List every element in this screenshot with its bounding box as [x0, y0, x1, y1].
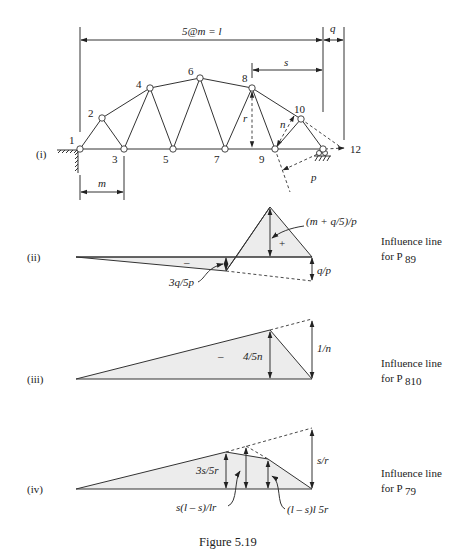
panel-label-iii: (iii) — [27, 373, 44, 386]
s-label: s — [284, 56, 288, 68]
web-members — [102, 78, 301, 149]
plus-sign: + — [279, 237, 285, 249]
minus-sign: – — [183, 256, 190, 268]
figure-caption: Figure 5.19 — [199, 535, 257, 549]
node-label-7: 7 — [214, 153, 220, 165]
node-label-2: 2 — [88, 107, 94, 119]
negative-area — [76, 330, 312, 379]
line-10-to-12 — [301, 119, 342, 148]
p-label: p — [310, 171, 317, 183]
peak-label: 4/5n — [243, 350, 263, 362]
dashed-extension — [270, 319, 312, 330]
caption-line2: for P — [381, 372, 403, 384]
node-label-3: 3 — [112, 153, 118, 165]
minus-sign: – — [217, 350, 224, 362]
influence-line-p89: (ii) (m + q/5)/p + – 3q/5p q/p Influence… — [27, 207, 442, 288]
node-label-8: 8 — [242, 72, 248, 84]
negative-label: 3q/5p — [168, 276, 195, 288]
end-label: s/r — [317, 454, 329, 466]
left-ordinate-label: 3s/5r — [195, 464, 219, 476]
truss-nodes — [77, 75, 326, 152]
caption-subscript: 79 — [405, 485, 417, 497]
arrow-to-12 — [325, 148, 344, 149]
node-label-1: 1 — [69, 134, 75, 146]
influence-line-p810: (iii) – 4/5n 1/n Influence line for P 81… — [27, 319, 442, 387]
m-label: m — [98, 177, 106, 189]
node-label-5: 5 — [163, 153, 169, 165]
line-9-extension — [275, 149, 290, 192]
dashed-upper-line — [226, 428, 312, 452]
node-label-6: 6 — [188, 65, 194, 77]
panel-label-i: (i) — [36, 148, 47, 161]
figure-canvas: (i) 5@m = l q s r n 12 p — [0, 0, 461, 559]
right-ordinate-label: (l – s)l 5r — [287, 503, 329, 516]
n-label: n — [280, 118, 286, 130]
p-dimension-arrow — [283, 152, 322, 170]
end-label: q/p — [317, 264, 332, 276]
node-label-9: 9 — [259, 153, 265, 165]
node-label-10: 10 — [294, 103, 306, 115]
r-label: r — [243, 112, 248, 124]
truss-diagram: (i) 5@m = l q s r n 12 p — [36, 22, 361, 200]
q-label: q — [330, 22, 336, 34]
dashed-extension — [226, 271, 312, 281]
caption-line1: Influence line — [381, 235, 442, 247]
node-label-4: 4 — [136, 78, 142, 90]
caption-line2: for P — [381, 482, 403, 494]
panel-label-ii: (ii) — [27, 251, 41, 264]
span-label: 5@m = l — [182, 25, 222, 37]
caption-line1: Influence line — [381, 357, 442, 369]
peak-label: (m + q/5)/p — [306, 215, 357, 228]
caption-line2: for P — [381, 250, 403, 262]
caption-subscript: 810 — [405, 375, 422, 387]
panel-label-iv: (iv) — [27, 483, 43, 496]
caption-line1: Influence line — [381, 467, 442, 479]
influence-line-p79: (iv) 3s/5r s(l – s)/lr (l – s)l 5r s/r I… — [27, 428, 442, 516]
mid-ordinate-label: s(l – s)/lr — [176, 501, 217, 514]
node-label-12: 12 — [350, 143, 361, 155]
caption-subscript: 89 — [405, 253, 417, 265]
pin-support-icon — [57, 150, 80, 173]
positive-area — [236, 207, 312, 257]
end-label: 1/n — [317, 342, 332, 354]
